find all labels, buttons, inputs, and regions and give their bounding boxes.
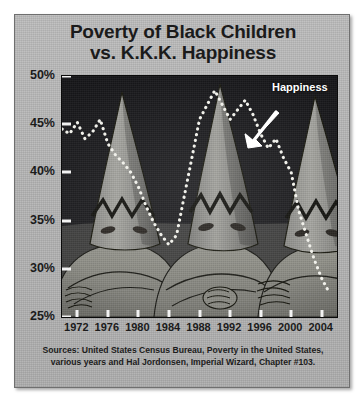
y-axis-label: 30% [30,261,55,275]
page-title: Poverty of Black Children vs. K.K.K. Hap… [15,21,351,63]
y-axis-label: 45% [30,116,55,130]
x-axis-label: 1976 [95,321,119,333]
x-axis-label: 1984 [156,321,180,333]
y-axis-label: 35% [30,213,55,227]
page-title-line-1: Poverty of Black Children [15,21,351,42]
x-axis-labels: 197219761980198419881992199620002004 [61,321,338,339]
x-axis-label: 1996 [247,321,271,333]
poster-panel: Poverty of Black Children vs. K.K.K. Hap… [14,14,350,388]
x-axis-label: 1972 [64,321,88,333]
x-axis-label: 1992 [217,321,241,333]
x-axis-label: 2004 [308,321,332,333]
y-axis-label: 25% [30,309,55,323]
source-line-2: various years and Hal Jordonsen, Imperia… [23,357,343,369]
y-axis-label: 40% [30,164,55,178]
poster-root: Poverty of Black Children vs. K.K.K. Hap… [0,0,363,401]
happiness-annotation-label: Happiness [272,81,328,93]
y-axis-label: 50% [30,68,55,82]
source-caption: Sources: United States Census Bureau, Po… [23,345,343,368]
chart-plot-area [61,75,338,318]
page-title-line-2: vs. K.K.K. Happiness [15,42,351,63]
y-axis-labels: 50%45%40%35%30%25% [15,75,59,318]
x-axis-label: 1988 [186,321,210,333]
happiness-arrow-icon [62,76,337,317]
x-axis-label: 2000 [278,321,302,333]
x-axis-label: 1980 [125,321,149,333]
source-line-1: Sources: United States Census Bureau, Po… [23,345,343,357]
